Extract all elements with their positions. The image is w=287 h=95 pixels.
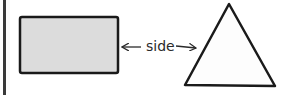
side-label: side bbox=[146, 38, 175, 54]
diagram-canvas: side bbox=[0, 0, 287, 95]
shapes-diagram: side bbox=[0, 0, 287, 95]
rectangle-shape bbox=[20, 17, 118, 73]
triangle-shape bbox=[185, 4, 275, 86]
arrow-right-icon bbox=[176, 46, 196, 48]
